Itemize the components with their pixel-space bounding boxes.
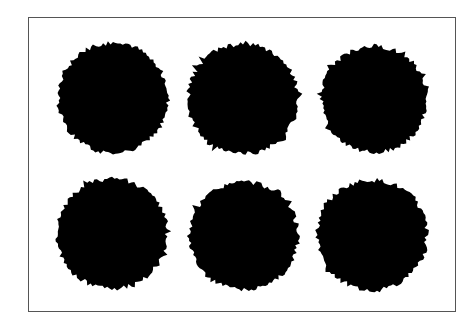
ink-blob-3 — [317, 44, 429, 154]
ink-blob-6 — [315, 178, 429, 292]
ink-blob-2 — [186, 41, 302, 155]
ink-blob-1 — [56, 41, 170, 154]
ink-blob-5 — [187, 180, 300, 291]
blob-grid — [0, 0, 472, 336]
ink-blob-4 — [56, 177, 172, 291]
